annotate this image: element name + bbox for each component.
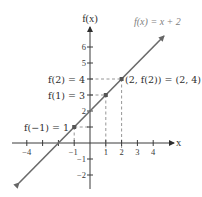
y-axis-label: f(x) (82, 13, 98, 25)
y-tick-label: −2 (77, 170, 86, 180)
function-line (19, 36, 164, 183)
annotation-f2: f(2) = 4 (48, 74, 85, 85)
function-label: f(x) = x + 2 (134, 16, 181, 28)
x-axis-label: x (176, 137, 182, 148)
annotation-point-2-4: (2, f(2)) = (2, 4) (125, 74, 201, 85)
x-tick-label: 3 (135, 147, 139, 157)
x-tick-label: 4 (151, 147, 156, 157)
annotation-fm1: f(−1) = 1 (24, 122, 69, 133)
x-tick-label: 2 (119, 147, 123, 157)
point-1-3 (104, 93, 108, 97)
point-m1-1 (72, 125, 76, 129)
x-tick-label: 1 (104, 147, 108, 157)
annotation-f1: f(1) = 3 (48, 90, 85, 101)
y-tick-label: 2 (82, 106, 86, 116)
x-tick-label: −4 (22, 147, 32, 157)
point-2-4 (120, 77, 124, 81)
y-tick-label: −1 (77, 154, 86, 164)
function-graph: −4 −1 1 2 3 4 6 5 2 −1 −2 f(x) x f(x) = … (0, 0, 202, 197)
x-tick-labels: −4 −1 1 2 3 4 (22, 147, 156, 157)
y-tick-label: 5 (82, 58, 86, 68)
y-tick-labels: 6 5 2 −1 −2 (77, 42, 86, 180)
y-tick-label: 6 (82, 42, 86, 52)
